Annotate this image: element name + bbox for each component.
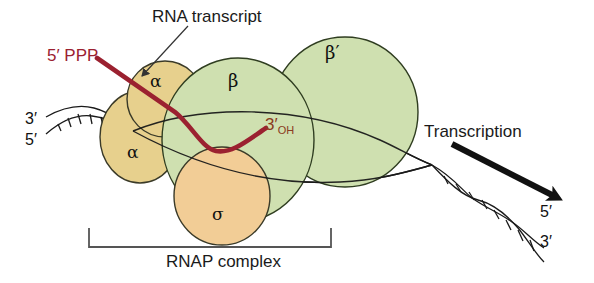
subunit-label-alpha-lower: α <box>127 142 138 162</box>
transcription-label: Transcription <box>424 122 522 142</box>
subunit-sigma <box>174 147 270 245</box>
dna-right-five-prime-label: 5′ <box>540 203 552 221</box>
dna-left-three-prime-label: 3′ <box>25 110 37 128</box>
subunit-label-beta-prime: β′ <box>325 42 340 63</box>
dna-right-three-prime-label: 3′ <box>540 233 552 251</box>
subunit-label-sigma: σ <box>212 204 224 224</box>
rnap-complex-label: RNAP complex <box>166 252 281 272</box>
subunit-label-alpha-upper: α <box>150 71 161 91</box>
dna-left-five-prime-label: 5′ <box>25 131 37 149</box>
three-prime-oh-label: 3′OH <box>265 115 294 136</box>
rna-transcript-label: RNA transcript <box>152 7 262 27</box>
five-prime-ppp-label: 5′ PPP <box>47 46 98 66</box>
three-prime-oh-subscript: OH <box>278 124 295 136</box>
transcription-direction-arrow <box>452 144 554 196</box>
rnap-subunits <box>100 37 418 245</box>
subunit-label-beta: β <box>228 70 238 91</box>
